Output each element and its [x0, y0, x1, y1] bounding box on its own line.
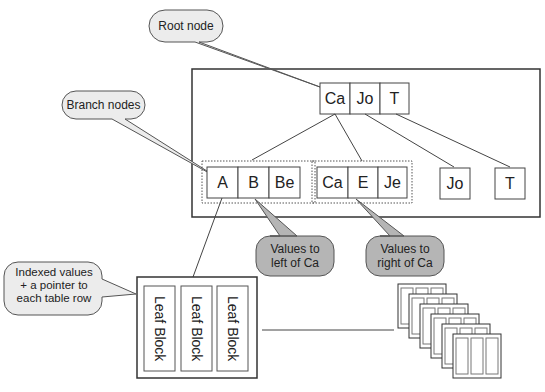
branch-1-key-2: B: [238, 167, 269, 198]
leaf-callout-line-2: + a pointer to: [6, 279, 102, 292]
branch-2-key-1: Ca: [317, 167, 348, 198]
left-callout-label: Values to left of Ca: [256, 242, 334, 270]
branch-node-jo: Jo: [440, 168, 470, 199]
root-key-2: Jo: [350, 83, 380, 114]
branch-callout-label: Branch nodes: [62, 98, 145, 112]
branch-1-key-3: Be: [269, 167, 300, 198]
root-key-1: Ca: [320, 83, 350, 114]
leaf-callout-line-3: each table row: [6, 292, 102, 305]
leaf-callout-line-1: Indexed values: [6, 266, 102, 279]
left-callout-line-2: left of Ca: [256, 256, 334, 270]
branch-1-key-1: A: [207, 167, 238, 198]
branch-2-key-2: E: [348, 167, 378, 198]
right-callout-line-1: Values to: [366, 242, 444, 256]
root-key-3: T: [380, 83, 409, 114]
leaf-block-1: Leaf Block: [144, 286, 175, 371]
left-callout-line-1: Values to: [256, 242, 334, 256]
right-callout-line-2: right of Ca: [366, 256, 444, 270]
leaf-callout-label: Indexed values + a pointer to each table…: [6, 266, 102, 305]
leaf-block-3: Leaf Block: [217, 286, 248, 371]
root-callout-label: Root node: [150, 19, 222, 33]
right-callout-label: Values to right of Ca: [366, 242, 444, 270]
branch-node-t: T: [495, 168, 525, 199]
branch-2-key-3: Je: [378, 167, 407, 198]
leaf-block-2: Leaf Block: [181, 286, 212, 371]
